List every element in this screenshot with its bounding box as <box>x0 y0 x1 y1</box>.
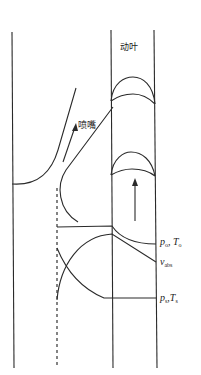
rotor-blade-label: 动叶 <box>120 43 138 52</box>
blade-1-pressure-side <box>111 94 155 104</box>
casing-left-line <box>12 32 14 368</box>
nozzle-flow-arrow-shaft <box>63 127 75 162</box>
static-pressure-curve <box>57 248 156 298</box>
static-label: ps,Ts <box>160 293 178 304</box>
blade-row-right-line <box>154 30 157 368</box>
blade-2-pressure-side <box>111 169 155 176</box>
blade-1-suction-side <box>111 77 155 104</box>
stagnation-label: po, To <box>160 237 182 248</box>
turbine-stage-diagram <box>0 0 201 375</box>
nozzle-label: 喷嘴 <box>78 121 96 130</box>
velocity-label: vabs <box>160 257 172 268</box>
absolute-velocity-curve <box>57 234 156 300</box>
blade-row-left-line <box>111 30 113 368</box>
blade-flow-arrow-head <box>132 178 138 186</box>
